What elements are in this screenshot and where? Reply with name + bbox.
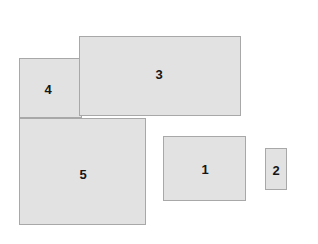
rectangle-label-4: 4 [44, 83, 51, 96]
rectangle-label-5: 5 [79, 168, 86, 181]
rectangle-layout-canvas: 43512 [0, 0, 318, 244]
rectangle-label-2: 2 [272, 164, 279, 177]
rectangle-label-3: 3 [155, 68, 162, 81]
rectangle-label-1: 1 [201, 163, 208, 176]
